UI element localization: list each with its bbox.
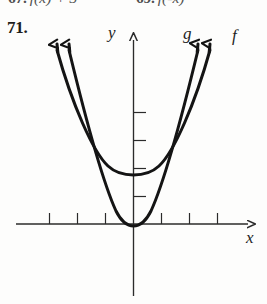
axes-group bbox=[16, 40, 248, 296]
curve-label-f: f bbox=[232, 26, 237, 46]
graph-figure: y x g f bbox=[0, 0, 267, 304]
y-axis-label: y bbox=[108, 23, 116, 43]
curve-f-arrow-right bbox=[197, 44, 198, 52]
curve-g-arrow-right bbox=[209, 44, 210, 52]
y-axis-ticks bbox=[134, 113, 147, 197]
curve-f-arrow-left bbox=[69, 44, 70, 52]
coordinate-plane-svg bbox=[0, 0, 267, 304]
figure-page: 67.f(x) + 3 69.f(-x) 71. bbox=[0, 0, 267, 304]
curve-label-g: g bbox=[183, 24, 192, 44]
curve-g-arrow-left bbox=[57, 44, 58, 52]
x-axis-label: x bbox=[246, 228, 254, 248]
